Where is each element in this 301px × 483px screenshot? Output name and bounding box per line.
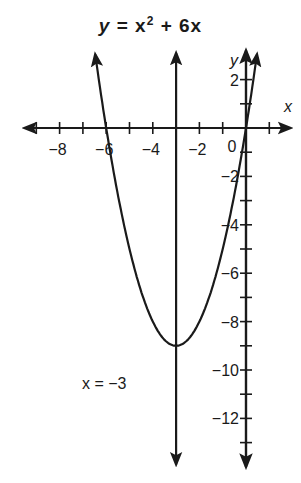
origin-label: 0 — [228, 138, 237, 155]
y-tick-label: −8 — [221, 314, 239, 331]
y-axis-label: y — [229, 52, 239, 69]
x-tick-label: −6 — [95, 141, 113, 158]
x-tick-label: −8 — [48, 141, 66, 158]
y-tick-label: −12 — [212, 410, 239, 427]
y-tick-label: −4 — [221, 217, 239, 234]
x-tick-label: −4 — [142, 141, 160, 158]
y-tick-label: −10 — [212, 362, 239, 379]
curves — [95, 53, 257, 464]
x-tick-label: −2 — [188, 141, 206, 158]
y-tick-label: 2 — [230, 72, 239, 89]
y-tick-label: −2 — [221, 168, 239, 185]
symmetry-annotation: x = −3 — [82, 375, 127, 392]
x-axis-label: x — [283, 98, 293, 115]
y-tick-label: −6 — [221, 265, 239, 282]
ticks — [36, 80, 269, 443]
plot-area: −8−6−4−22−2−4−6−8−10−120xyx = −3 — [0, 0, 301, 483]
axes — [25, 51, 291, 467]
labels: −8−6−4−22−2−4−6−8−10−120xyx = −3 — [48, 52, 293, 427]
